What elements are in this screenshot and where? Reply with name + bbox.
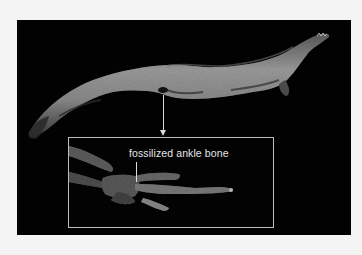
label-leader-line: [136, 162, 137, 182]
pointer-arrow-line: [163, 95, 164, 133]
ankle-bone-label: fossilized ankle bone: [129, 147, 229, 159]
pointer-arrow-head-icon: [160, 130, 166, 136]
figure-panel: fossilized ankle bone: [17, 20, 351, 235]
inset-box: fossilized ankle bone: [68, 137, 274, 228]
